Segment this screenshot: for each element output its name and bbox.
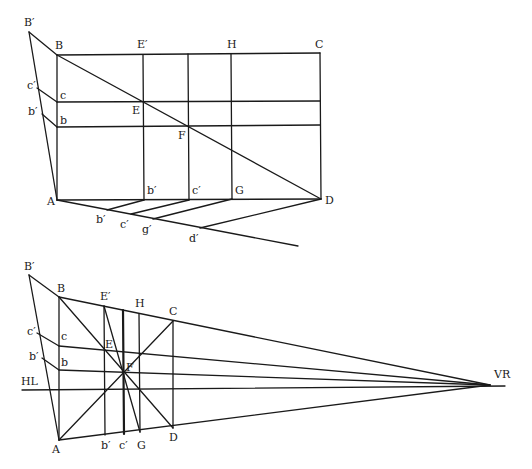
label-bp-base: b′: [101, 439, 111, 452]
label-C: C: [315, 38, 323, 51]
bottom-figure: B′ B E′ H C c′ c b′ b E F HL VR A b′ c′ …: [21, 260, 511, 456]
label-cp-low: c′: [120, 218, 129, 231]
label-A: A: [51, 443, 61, 456]
label-c: c: [60, 89, 66, 102]
label-D: D: [325, 194, 334, 207]
label-C: C: [169, 305, 177, 318]
label-cp-base: c′: [119, 439, 128, 452]
diagonal-AC: [59, 321, 173, 440]
label-H: H: [135, 297, 145, 310]
label-G: G: [137, 439, 146, 452]
label-E: E: [105, 338, 113, 351]
label-Bp: B′: [24, 260, 35, 273]
transfer-bp: [107, 200, 144, 210]
label-cp-base: c′: [192, 184, 201, 197]
label-B: B: [55, 39, 63, 52]
line-Bp-B: [29, 275, 59, 297]
label-dp-low: d′: [189, 232, 199, 245]
label-VR: VR: [493, 368, 511, 381]
label-Bp: B′: [24, 16, 35, 29]
label-b: b: [60, 114, 67, 127]
label-c: c: [61, 330, 67, 343]
label-HL: HL: [21, 375, 39, 388]
transfer-dp: [200, 199, 321, 228]
label-F: F: [126, 361, 134, 374]
label-bp-base: b′: [147, 184, 157, 197]
vertical-E: [104, 306, 105, 435]
vertical-H: [231, 54, 232, 199]
horizon-line: [22, 386, 505, 390]
transfer-gp: [153, 199, 232, 219]
vertical-H: [139, 314, 140, 432]
label-bp-low: b′: [96, 213, 106, 226]
label-b: b: [61, 356, 68, 369]
label-H: H: [227, 38, 237, 51]
right-edge-CD: [320, 53, 321, 199]
perspective-diagram: B′ B E′ H C c′ c b′ b E F A D b′ c′ G b′…: [0, 0, 532, 469]
label-bp: b′: [29, 350, 39, 363]
label-Ep: E′: [100, 290, 111, 303]
label-D: D: [169, 431, 178, 444]
label-gp-low: g′: [142, 223, 152, 236]
measuring-line: [57, 200, 298, 246]
label-B: B: [57, 282, 65, 295]
label-G: G: [235, 184, 244, 197]
diagonal-Ep-G: [104, 306, 140, 432]
top-figure: B′ B E′ H C c′ c b′ b E F A D b′ c′ G b′…: [24, 16, 334, 246]
label-F: F: [178, 129, 186, 142]
label-cp: c′: [27, 79, 36, 92]
label-Ep: E′: [137, 38, 148, 51]
label-E: E: [132, 104, 140, 117]
label-bp: b′: [28, 105, 38, 118]
label-A: A: [46, 195, 56, 208]
line-Bp-B: [29, 32, 57, 55]
label-cp: c′: [27, 325, 36, 338]
vertical-E: [143, 55, 144, 200]
